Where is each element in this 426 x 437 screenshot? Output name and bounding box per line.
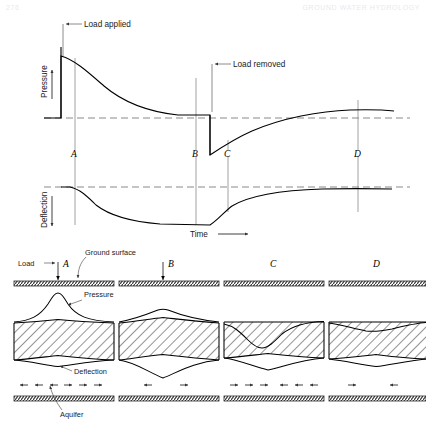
panel-d-deflection-curve	[329, 359, 426, 367]
panel-d-aquifer	[329, 396, 426, 401]
panel-c-ground-surface	[224, 281, 324, 286]
panel-c-deflection-curve	[224, 358, 324, 370]
pressure-curve	[61, 56, 394, 155]
time-axis-label: Time	[190, 230, 208, 239]
panel-d-title: D	[372, 259, 380, 269]
panel-a-ground-surface	[14, 281, 114, 286]
panel-a-load-label: Load	[18, 259, 34, 268]
deflection-curve	[61, 187, 392, 225]
panel-a-aquifer	[14, 396, 114, 401]
stage-label-a: A	[70, 149, 77, 159]
panel-a-clay-layer	[14, 320, 114, 361]
panel-a: Load A Ground surface Pressure Deflectio…	[14, 248, 136, 419]
panel-a-pressure-leader	[68, 300, 82, 305]
panel-b: B	[119, 259, 219, 401]
panel-b-clay-layer	[119, 318, 219, 361]
top-chart: Pressure Deflection A B C D Load applied…	[40, 20, 410, 239]
panel-a-pressure-label: Pressure	[84, 290, 114, 299]
panel-a-title: A	[62, 259, 69, 269]
panel-c-clay-layer	[224, 322, 324, 358]
stage-label-b: B	[192, 149, 198, 159]
panel-c-aquifer	[224, 396, 324, 401]
panel-d-ground-surface	[329, 281, 426, 286]
deflection-leader	[60, 366, 72, 371]
ground-surface-label: Ground surface	[85, 248, 136, 257]
stage-label-d: D	[353, 149, 361, 159]
panel-d-clay-layer	[329, 322, 426, 359]
deflection-axis-label: Deflection	[40, 191, 49, 228]
stage-label-c: C	[224, 149, 231, 159]
ground-surface-leader	[78, 257, 86, 278]
panel-b-aquifer	[119, 396, 219, 401]
load-removed-label: Load removed	[233, 60, 286, 69]
panel-c-title: C	[270, 259, 277, 269]
consolidation-figure: Pressure Deflection A B C D Load applied…	[0, 0, 426, 437]
aquifer-label: Aquifer	[60, 410, 84, 419]
panel-b-ground-surface	[119, 281, 219, 286]
panel-b-title: B	[168, 259, 174, 269]
panel-b-deflection-curve	[119, 360, 219, 378]
deflection-label: Deflection	[74, 367, 107, 376]
panel-a-deflection-curve	[14, 360, 114, 367]
panel-d: D	[329, 259, 426, 401]
panel-c: C	[224, 259, 324, 401]
pressure-axis-label: Pressure	[40, 65, 49, 98]
load-applied-label: Load applied	[84, 20, 131, 29]
